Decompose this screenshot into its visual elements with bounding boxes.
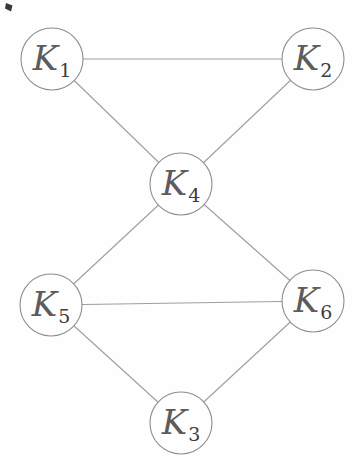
node-label-base-K2: K — [293, 38, 322, 78]
node-label-subscript-K3: 3 — [188, 423, 200, 445]
node-label-subscript-K6: 6 — [320, 301, 332, 323]
graph-figure: K1K2K4K5K6K3 — [0, 0, 357, 470]
graph-diagram: K1K2K4K5K6K3 — [0, 0, 357, 470]
node-label-base-K1: K — [32, 38, 61, 78]
edge-K5-K6 — [51, 301, 313, 305]
ink-speck — [5, 3, 13, 12]
node-label-base-K6: K — [293, 280, 322, 320]
node-label-base-K3: K — [161, 402, 190, 442]
node-label-subscript-K2: 2 — [320, 59, 332, 81]
node-label-subscript-K5: 5 — [58, 305, 70, 327]
node-label-subscript-K4: 4 — [188, 184, 200, 206]
node-label-base-K5: K — [31, 284, 60, 324]
node-label-base-K4: K — [161, 163, 190, 203]
node-label-subscript-K1: 1 — [59, 59, 71, 81]
